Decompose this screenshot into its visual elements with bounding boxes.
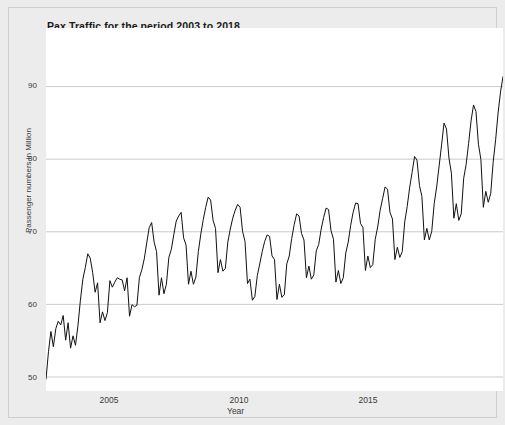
x-tick-label-2015: 2015 <box>348 395 388 405</box>
y-axis-label: Passenger numbers in Million <box>24 116 33 246</box>
x-tick-label-2005: 2005 <box>89 395 129 405</box>
y-tick-label-90: 90 <box>13 81 37 90</box>
plot-svg <box>46 28 503 391</box>
y-tick-label-70: 70 <box>13 227 37 236</box>
y-tick-label-60: 60 <box>13 300 37 309</box>
gridlines <box>46 87 503 377</box>
y-tick-label-80: 80 <box>13 154 37 163</box>
figure-container: Pax Traffic for the period 2003 to 2018 … <box>8 7 497 418</box>
data-series-line <box>46 39 503 379</box>
x-axis-label: Year <box>227 406 244 416</box>
chart-screenshot: Pax Traffic for the period 2003 to 2018 … <box>0 0 505 425</box>
plot-area <box>46 28 503 391</box>
y-tick-label-50: 50 <box>13 373 37 382</box>
x-tick-label-2010: 2010 <box>219 395 259 405</box>
